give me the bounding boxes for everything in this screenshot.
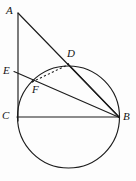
point-label-c: C	[2, 110, 9, 121]
point-marker-b	[118, 116, 120, 118]
point-label-a: A	[6, 5, 13, 16]
point-label-e: E	[3, 65, 10, 76]
point-label-f: F	[32, 84, 39, 95]
point-marker-d	[67, 63, 69, 65]
segment-eb	[14, 72, 120, 118]
geometry-figure: A E C B D F	[0, 0, 136, 181]
point-label-d: D	[67, 48, 75, 59]
point-label-b: B	[123, 111, 130, 122]
segment-fd-dashed	[32, 65, 69, 83]
figure-canvas	[0, 0, 136, 181]
